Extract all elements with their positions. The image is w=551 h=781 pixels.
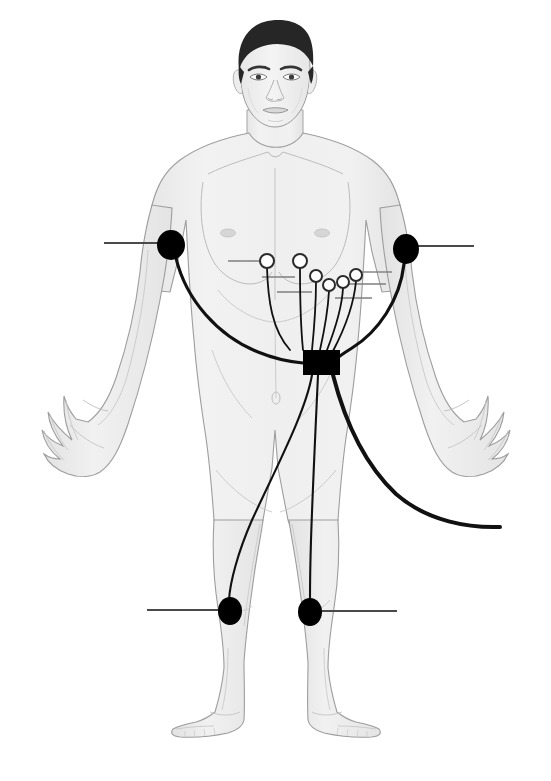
pupil-right <box>256 74 261 79</box>
chest-electrode-v1[interactable] <box>260 254 274 268</box>
left-leg-electrode[interactable] <box>298 598 322 626</box>
human-body-group <box>42 20 510 737</box>
left-leg-shape <box>289 520 380 737</box>
pupil-left <box>289 74 294 79</box>
torso-shape <box>146 133 406 565</box>
nipple-right <box>221 229 236 237</box>
mouth-shape <box>263 108 288 113</box>
holter-recorder-box[interactable] <box>303 350 340 375</box>
chest-electrode-v2[interactable] <box>293 254 307 268</box>
right-arm-shape <box>42 205 172 476</box>
left-arm-electrode[interactable] <box>393 234 419 264</box>
chest-electrode-v5[interactable] <box>337 276 349 288</box>
right-arm-electrode[interactable] <box>157 230 185 260</box>
right-leg-shape <box>172 520 263 737</box>
ecg-electrode-placement-figure <box>0 0 551 781</box>
chest-electrode-v4[interactable] <box>323 279 335 291</box>
anatomical-diagram-svg <box>0 0 551 781</box>
right-leg-electrode[interactable] <box>218 597 242 625</box>
chest-electrode-v6[interactable] <box>350 269 362 281</box>
chest-electrode-v3[interactable] <box>310 270 322 282</box>
nipple-left <box>315 229 330 237</box>
